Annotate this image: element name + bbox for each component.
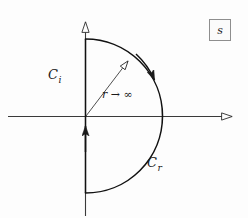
contour-arc-label: Cr <box>147 156 162 172</box>
contour-arc-symbol: C <box>147 155 157 170</box>
radius-limit-label: r → ∞ <box>102 89 133 100</box>
contour-arc-subscript: r <box>157 162 161 173</box>
s-plane-badge: s <box>209 19 231 41</box>
contour-imaginary-subscript: i <box>58 74 61 85</box>
contour-imaginary-symbol: C <box>48 67 58 82</box>
s-plane-badge-label: s <box>217 24 223 37</box>
contour-imaginary-label: Ci <box>48 68 61 84</box>
complex-plane-contour-figure: Ci Cr r → ∞ s <box>0 0 248 218</box>
